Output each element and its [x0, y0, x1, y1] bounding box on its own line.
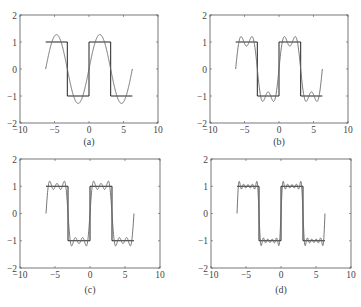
x-tick-label: −5 [49, 125, 59, 135]
x-tick-label: 5 [311, 125, 316, 135]
caption-b: (b) [249, 136, 309, 147]
caption-c: (c) [60, 284, 120, 295]
x-tick-label: 0 [88, 270, 93, 280]
x-tick-label: 10 [343, 125, 353, 135]
x-tick-label: −5 [239, 125, 249, 135]
y-tick-label: 0 [12, 209, 17, 219]
x-tick-label: 10 [346, 270, 356, 280]
y-tick-label: −1 [198, 236, 208, 246]
x-tick-label: 0 [279, 270, 284, 280]
y-tick-label: 1 [12, 182, 17, 192]
x-tick-label: 5 [121, 125, 126, 135]
panel-a: −10−50510−2−1012 [0, 11, 166, 145]
y-tick-label: −1 [7, 236, 17, 246]
caption-a: (a) [59, 136, 119, 147]
y-tick-label: 1 [202, 38, 207, 48]
panel-c: −10−50510−2−1012 [0, 155, 168, 290]
figure: −10−50510−2−1012 −10−50510−2−1012 −10−50… [0, 0, 361, 307]
caption-d: (d) [251, 284, 311, 295]
x-tick-label: −5 [50, 270, 60, 280]
y-tick-label: 0 [202, 65, 207, 75]
y-tick-label: 2 [203, 155, 208, 165]
plot-d: −10−50510−2−1012 [191, 155, 359, 286]
y-tick-label: −1 [197, 92, 207, 102]
y-tick-label: −2 [7, 119, 17, 129]
y-tick-label: 1 [203, 182, 208, 192]
x-tick-label: 5 [123, 270, 128, 280]
plot-b: −10−50510−2−1012 [190, 11, 356, 141]
y-tick-label: 0 [12, 65, 17, 75]
y-tick-label: −2 [7, 264, 17, 274]
y-tick-label: 2 [12, 155, 17, 165]
plot-c: −10−50510−2−1012 [0, 155, 168, 286]
y-tick-label: −2 [197, 119, 207, 129]
x-tick-label: 10 [155, 270, 165, 280]
x-tick-label: 0 [277, 125, 282, 135]
y-tick-label: −1 [7, 92, 17, 102]
y-tick-label: −2 [198, 264, 208, 274]
y-tick-label: 2 [202, 11, 207, 21]
panel-b: −10−50510−2−1012 [190, 11, 356, 145]
y-tick-label: 2 [12, 11, 17, 21]
x-tick-label: 0 [87, 125, 92, 135]
y-tick-label: 1 [12, 38, 17, 48]
y-tick-label: 0 [203, 209, 208, 219]
x-tick-label: 10 [153, 125, 163, 135]
panel-d: −10−50510−2−1012 [191, 155, 359, 290]
x-tick-label: 5 [314, 270, 319, 280]
plot-a: −10−50510−2−1012 [0, 11, 166, 141]
x-tick-label: −5 [241, 270, 251, 280]
